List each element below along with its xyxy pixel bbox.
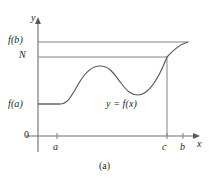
figure-container: y f(b) N f(a) 0 a c b x y = f(x) (a): [0, 0, 209, 182]
y-axis-label: y: [31, 13, 36, 23]
x-tick-label-c: c: [162, 142, 167, 152]
y-value-label-fb: f(b): [8, 35, 23, 45]
x-tick-label-b: b: [180, 142, 185, 152]
y-value-label-fa: f(a): [8, 99, 23, 109]
function-curve: [38, 42, 188, 104]
plot-canvas: [0, 0, 209, 182]
curve-equation-label: y = f(x): [106, 99, 137, 109]
x-axis-label: x: [197, 139, 202, 149]
figure-caption: (a): [0, 160, 209, 171]
origin-label: 0: [24, 130, 29, 140]
y-value-label-n: N: [19, 50, 26, 60]
x-tick-label-a: a: [53, 142, 58, 152]
